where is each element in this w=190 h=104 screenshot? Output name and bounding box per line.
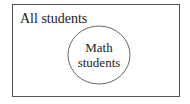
- venn-diagram: All students Math students: [0, 0, 190, 104]
- subset-label-line1: Math: [85, 40, 113, 55]
- subset-label-line2: students: [78, 55, 121, 70]
- universal-set-label: All students: [20, 11, 87, 26]
